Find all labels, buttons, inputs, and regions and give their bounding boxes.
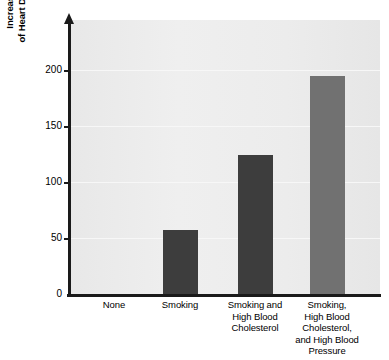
x-category-label-1-line-0: Smoking (145, 299, 215, 311)
plot-area (70, 20, 380, 295)
gridline-200 (70, 70, 380, 71)
y-tick-mark-150 (64, 126, 69, 128)
x-category-label-3-line-3: and High Blood (277, 334, 377, 346)
y-tick-label-100: 100 (16, 176, 62, 187)
y-axis-line (68, 22, 71, 296)
y-tick-label-150: 150 (16, 120, 62, 131)
chart-screenshot: Increase in the Risk of Heart Disease (p… (0, 0, 389, 360)
y-tick-label-50: 50 (16, 232, 62, 243)
x-category-label-3-line-4: Pressure (277, 345, 377, 357)
y-tick-mark-200 (64, 70, 69, 72)
bar-1 (163, 230, 198, 294)
x-axis-category-labels: NoneSmokingSmoking andHigh BloodCholeste… (67, 299, 383, 360)
x-category-label-3-line-2: Cholesterol, (277, 322, 377, 334)
x-category-label-1: Smoking (145, 299, 215, 311)
x-axis-line (67, 294, 381, 297)
x-category-label-3: Smoking,High BloodCholesterol,and High B… (277, 299, 377, 357)
y-axis-arrow-icon (64, 13, 74, 24)
y-tick-mark-100 (64, 182, 69, 184)
y-tick-mark-50 (64, 238, 69, 240)
x-category-label-3-line-1: High Blood (277, 311, 377, 323)
x-category-label-0-line-0: None (79, 299, 149, 311)
bar-3 (310, 76, 345, 294)
x-category-label-0: None (79, 299, 149, 311)
y-tick-label-0: 0 (16, 288, 62, 299)
bar-2 (238, 155, 273, 294)
y-axis-tick-labels: 050100150200 (14, 0, 62, 360)
x-category-label-3-line-0: Smoking, (277, 299, 377, 311)
y-tick-label-200: 200 (16, 64, 62, 75)
